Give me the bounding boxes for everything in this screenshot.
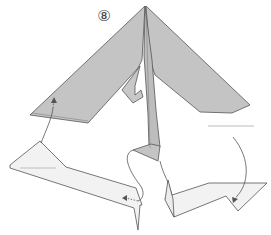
origami-diagram (0, 0, 271, 235)
right-arm (146, 6, 250, 113)
center-flap-tip (133, 144, 160, 161)
left-arm (30, 6, 145, 123)
main-folded-model (30, 6, 250, 161)
right-flap-before (165, 180, 267, 217)
left-flap-before (10, 141, 142, 230)
step-number: ⑧ (94, 6, 114, 26)
